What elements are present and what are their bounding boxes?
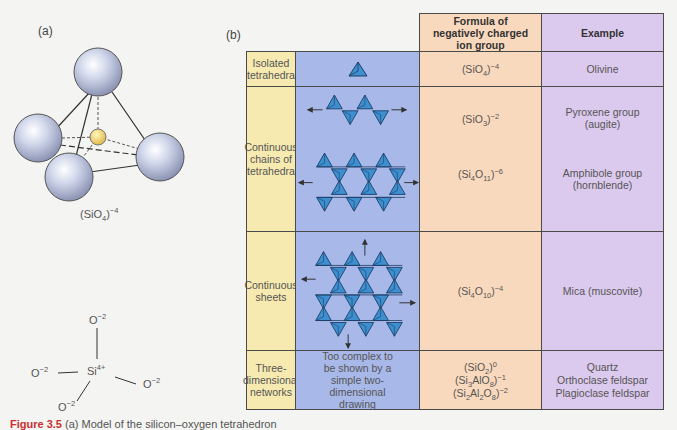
formula-sheets: (Si4O10)−4 <box>419 231 542 351</box>
silicon-label: Si4+ <box>87 365 105 377</box>
formula-isolated: (SiO4)−4 <box>419 51 542 87</box>
silicate-structures-table: Formula of negatively charged ion group … <box>246 13 664 410</box>
example-quartz: Quartz <box>556 361 650 373</box>
oxygen-sphere-front <box>45 153 93 201</box>
structure-networks: Three-dimensional networks <box>246 350 296 410</box>
example-orthoclase: Orthoclase feldspar <box>556 374 650 386</box>
oxygen-label-top: O−2 <box>89 314 106 326</box>
figure-caption: Figure 3.5 (a) Model of the silicon–oxyg… <box>10 418 277 430</box>
example-networks: Quartz Orthoclase feldspar Plagioclase f… <box>541 350 664 410</box>
oxygen-sphere-left <box>14 114 62 162</box>
tetrahedron-formula: (SiO4)−4 <box>80 208 118 220</box>
formula-networks: (SiO2)0 (Si3AlO8)−1 (Si2Al2O8)−2 <box>419 350 542 410</box>
single-tetrahedron-icon <box>348 61 368 77</box>
sheet-structure-illustration <box>296 231 419 351</box>
example-amphibole: Amphibole group (hornblende) <box>542 167 663 191</box>
formula-double-chain: (Si4O11)−6 <box>458 168 503 180</box>
oxygen-label-right: O−2 <box>143 378 160 390</box>
example-chains: Pyroxene group (augite) Amphibole group … <box>541 86 664 232</box>
formula-single-chain: (SiO3)−2 <box>462 113 499 125</box>
example-sheets: Mica (muscovite) <box>541 231 664 351</box>
bond-diagram-lines <box>0 260 200 410</box>
formula-orthoclase: (Si3AlO8)−1 <box>453 374 508 386</box>
oxygen-label-left: O−2 <box>31 367 48 379</box>
oxygen-sphere-top <box>74 48 122 96</box>
example-plagioclase: Plagioclase feldspar <box>556 387 650 399</box>
oxygen-label-bottom: O−2 <box>58 401 75 413</box>
structure-sheets: Continuous sheets <box>246 231 296 351</box>
formula-chains: (SiO3)−2 (Si4O11)−6 <box>419 86 542 232</box>
structure-isolated: Isolated tetrahedra <box>246 51 296 87</box>
panel-b-label: (b) <box>226 28 241 42</box>
structure-chains: Continuous chains of tetrahedra <box>246 86 296 232</box>
formula-plagioclase: (Si2Al2O8)−2 <box>453 387 508 399</box>
diagram-sheets <box>295 231 420 351</box>
oxygen-sphere-right <box>136 133 184 181</box>
example-isolated: Olivine <box>541 51 664 87</box>
diagram-isolated <box>295 51 420 87</box>
silicon-sphere <box>90 129 106 145</box>
diagram-networks-note: Too complex to be shown by a simple two-… <box>295 350 420 410</box>
tetrahedron-model-illustration <box>0 30 200 210</box>
chain-structures-illustration <box>296 86 419 232</box>
example-pyroxene: Pyroxene group (augite) <box>542 106 663 130</box>
header-example: Example <box>541 13 664 52</box>
header-formula: Formula of negatively charged ion group <box>419 13 542 52</box>
formula-quartz: (SiO2)0 <box>453 361 508 373</box>
diagram-chains <box>295 86 420 232</box>
